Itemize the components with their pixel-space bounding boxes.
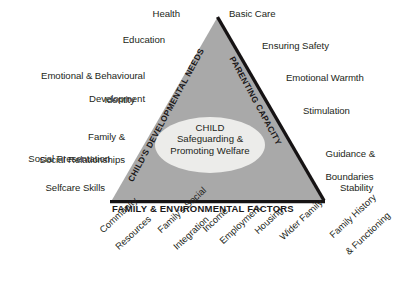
label-basic-care: Basic Care	[229, 8, 339, 20]
label-health: Health	[90, 8, 180, 20]
assessment-framework-diagram: CHILD Safeguarding & Promoting Welfare C…	[0, 0, 406, 287]
label-stability: Stability	[340, 182, 406, 194]
centre-line-1: Safeguarding &	[150, 133, 270, 144]
label-emotional-behavioural-development-line-1: Emotional & Behavioural	[41, 70, 145, 81]
label-guidance-boundaries-line-2: Boundaries	[325, 171, 373, 182]
label-emotional-warmth: Emotional Warmth	[286, 72, 406, 84]
label-selfcare-skills: Selfcare Skills	[10, 182, 105, 194]
label-stimulation: Stimulation	[303, 105, 403, 117]
label-emotional-behavioural-development: Emotional & Behavioural Development	[10, 58, 145, 116]
label-ensuring-safety: Ensuring Safety	[262, 40, 382, 52]
label-family-social-relationships-line-1: Family &	[88, 131, 125, 142]
label-family-social-relationships: Family & Social Relationships	[5, 119, 125, 177]
label-education: Education	[60, 34, 165, 46]
label-guidance-boundaries-line-1: Guidance &	[325, 148, 375, 159]
centre-line-2: Promoting Welfare	[150, 145, 270, 156]
centre-head: CHILD	[150, 122, 270, 133]
label-identity: Identity	[40, 94, 135, 106]
centre-label: CHILD Safeguarding & Promoting Welfare	[150, 122, 270, 156]
label-social-presentation: Social Presentation	[5, 153, 110, 165]
